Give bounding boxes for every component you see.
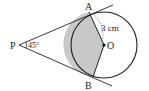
label-p: P xyxy=(10,40,16,51)
label-radius: 3 cm xyxy=(101,23,119,33)
center-point-o xyxy=(102,43,105,46)
label-b: B xyxy=(85,80,92,91)
geometry-diagram: P 45° A B O 3 cm xyxy=(0,0,149,91)
label-angle: 45° xyxy=(28,41,39,50)
label-a: A xyxy=(85,1,93,12)
label-o: O xyxy=(107,40,114,51)
angle-arc xyxy=(26,42,27,48)
